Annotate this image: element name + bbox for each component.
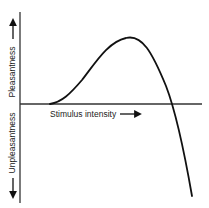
stimulus-intensity-label: Stimulus intensity [50, 109, 117, 119]
unpleasantness-label: Unpleasantness [7, 113, 17, 174]
wundt-curve-diagram: Pleasantness Unpleasantness Stimulus int… [0, 0, 209, 208]
pleasantness-label: Pleasantness [7, 46, 17, 97]
